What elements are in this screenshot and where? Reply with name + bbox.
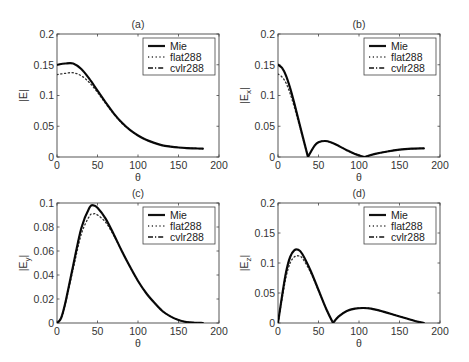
y-tick-label: 0 [48,151,54,163]
x-tick-label: 0 [54,325,60,337]
x-tick-label: 150 [391,325,409,337]
x-tick-label: 50 [92,159,104,171]
figure-canvas: 05010015020000.050.10.150.2(a)θ|E|Miefla… [0,0,469,362]
x-axis-label: θ [135,337,141,349]
x-tick-label: 150 [170,159,188,171]
y-tick-label: 0.04 [34,269,55,281]
subplot-d: 05010015020000.050.10.150.2(d)θ|Ez|Miefl… [238,187,449,349]
y-tick-label: 0.2 [39,28,54,40]
y-tick-label: 0.2 [260,28,275,40]
y-tick-label: 0.15 [34,59,55,71]
y-tick-label: 0.05 [34,120,55,132]
subplot-b: 05010015020000.050.10.150.2(b)θ|Ex|Miefl… [238,18,449,183]
x-tick-label: 50 [92,325,104,337]
x-tick-label: 100 [350,325,368,337]
legend-label-cvlr288: cvlr288 [170,62,204,74]
legend-label-cvlr288: cvlr288 [170,231,204,243]
x-tick-label: 50 [313,159,325,171]
y-tick-label: 0.06 [34,245,55,257]
subplot-title: (b) [353,18,366,30]
y-tick-label: 0.2 [260,197,275,209]
x-axis-label: θ [356,337,362,349]
x-tick-label: 200 [210,325,228,337]
y-tick-label: 0.1 [260,257,275,269]
x-tick-label: 100 [129,159,147,171]
legend: Mieflat288cvlr288 [143,38,215,75]
subplot-a: 05010015020000.050.10.150.2(a)θ|E|Miefla… [17,18,228,183]
y-axis-label: |Ey| [17,255,32,271]
y-tick-label: 0.1 [39,197,54,209]
x-tick-label: 0 [275,325,281,337]
y-axis-label: |Ez| [238,255,253,271]
x-tick-label: 200 [431,325,449,337]
y-tick-label: 0 [269,151,275,163]
x-tick-label: 100 [129,325,147,337]
x-tick-label: 50 [313,325,325,337]
subplot-c: 05010015020000.020.040.060.080.1(c)θ|Ey|… [17,187,228,349]
y-axis-label: |E| [17,89,29,101]
x-axis-label: θ [135,171,141,183]
legend: Mieflat288cvlr288 [364,38,436,75]
y-tick-label: 0.02 [34,293,55,305]
subplot-title: (a) [132,18,145,30]
x-tick-label: 200 [431,159,449,171]
x-tick-label: 100 [350,159,368,171]
legend-label-cvlr288: cvlr288 [391,231,425,243]
x-tick-label: 150 [391,159,409,171]
y-tick-label: 0.15 [255,227,276,239]
x-tick-label: 0 [54,159,60,171]
x-tick-label: 150 [170,325,188,337]
y-tick-label: 0.1 [39,89,54,101]
y-tick-label: 0.1 [260,89,275,101]
x-tick-label: 0 [275,159,281,171]
x-tick-label: 200 [210,159,228,171]
legend: Mieflat288cvlr288 [364,207,436,244]
subplot-title: (c) [132,187,144,199]
y-tick-label: 0 [269,317,275,329]
legend-label-cvlr288: cvlr288 [391,62,425,74]
y-axis-label: |Ex| [238,87,253,103]
y-tick-label: 0.15 [255,59,276,71]
legend: Mieflat288cvlr288 [143,207,215,244]
y-tick-label: 0.08 [34,221,55,233]
y-tick-label: 0.05 [255,120,276,132]
y-tick-label: 0 [48,317,54,329]
y-tick-label: 0.05 [255,287,276,299]
x-axis-label: θ [356,171,362,183]
subplot-title: (d) [353,187,366,199]
